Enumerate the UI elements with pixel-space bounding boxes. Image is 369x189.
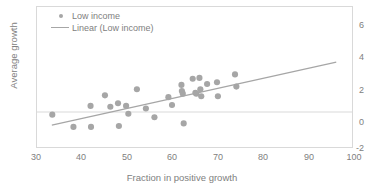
legend-marker-icon <box>51 11 72 21</box>
data-point <box>115 100 121 106</box>
trendline <box>52 62 336 125</box>
legend-label-low-income: Low income <box>72 11 120 21</box>
x-tick-label-40: 40 <box>66 152 96 162</box>
x-tick-label-80: 80 <box>248 152 278 162</box>
legend-item-linear-low-income[interactable]: Linear (Low income) <box>51 22 154 33</box>
data-point <box>190 76 196 82</box>
x-tick-label-100: 100 <box>339 152 369 162</box>
data-point <box>181 120 187 126</box>
x-tick-label-60: 60 <box>157 152 187 162</box>
data-point <box>116 123 122 129</box>
y-axis-title: Average growth <box>8 1 19 111</box>
legend-item-low-income[interactable]: Low income <box>51 10 154 21</box>
x-tick-label-30: 30 <box>21 152 51 162</box>
data-point <box>87 103 93 109</box>
data-point <box>70 124 76 130</box>
legend-line-icon <box>51 23 72 33</box>
x-tick-label-90: 90 <box>294 152 324 162</box>
data-point <box>215 93 221 99</box>
data-point <box>169 102 175 108</box>
data-point <box>49 112 55 118</box>
x-tick-label-50: 50 <box>112 152 142 162</box>
data-point <box>204 81 210 87</box>
data-point <box>198 93 204 99</box>
data-point <box>134 86 140 92</box>
legend-label-linear-low-income: Linear (Low income) <box>72 23 154 33</box>
data-point <box>151 114 157 120</box>
data-point <box>196 75 202 81</box>
data-point <box>178 82 184 88</box>
data-point <box>102 92 108 98</box>
x-axis-title: Fraction in positive growth <box>0 172 364 183</box>
data-point <box>232 71 238 77</box>
data-point <box>214 79 220 85</box>
data-point <box>125 111 131 117</box>
x-tick-label-70: 70 <box>203 152 233 162</box>
data-point <box>107 104 113 110</box>
chart-legend: Low income Linear (Low income) <box>51 10 154 34</box>
data-point <box>88 124 94 130</box>
data-point <box>143 105 149 111</box>
